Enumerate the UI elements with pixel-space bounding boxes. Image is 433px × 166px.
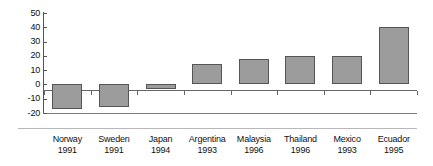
category-year: 1994: [137, 145, 184, 156]
y-tick-mark: [44, 42, 47, 43]
category-year: 1991: [44, 145, 91, 156]
y-tick-label: -20: [2, 109, 40, 118]
x-category-label: Norway1991: [44, 134, 91, 156]
category-label-separator: [18, 128, 417, 129]
bar: [52, 84, 82, 108]
x-category-label: Sweden1991: [91, 134, 138, 156]
x-tick-mark: [231, 91, 232, 95]
bar-chart: 50403020100-10-20 Norway1991Sweden1991Ja…: [0, 0, 433, 166]
bar: [192, 64, 222, 84]
plot-area: [44, 13, 416, 113]
category-name: Thailand: [277, 134, 324, 145]
x-tick-mark: [324, 91, 325, 95]
x-category-label: Argentina1993: [184, 134, 231, 156]
x-category-label: Japan1994: [137, 134, 184, 156]
bar: [239, 59, 269, 85]
y-tick-label: 30: [2, 37, 40, 46]
y-tick-mark: [44, 99, 47, 100]
x-category-label: Mexico1993: [324, 134, 371, 156]
category-name: Malaysia: [231, 134, 278, 145]
y-tick-mark: [44, 13, 47, 14]
y-tick-mark: [44, 84, 47, 85]
y-tick-label: 10: [2, 66, 40, 75]
bar: [99, 84, 129, 107]
category-year: 1993: [184, 145, 231, 156]
y-tick-label: 0: [2, 80, 40, 89]
bar: [379, 27, 409, 84]
category-year: 1996: [277, 145, 324, 156]
x-category-label: Ecuador1995: [370, 134, 417, 156]
category-name: Japan: [137, 134, 184, 145]
bar: [332, 56, 362, 85]
y-tick-mark: [44, 70, 47, 71]
y-tick-label: 50: [2, 9, 40, 18]
category-name: Argentina: [184, 134, 231, 145]
bar: [285, 56, 315, 85]
x-tick-mark: [184, 91, 185, 95]
y-tick-label: 40: [2, 23, 40, 32]
category-year: 1993: [324, 145, 371, 156]
category-name: Norway: [44, 134, 91, 145]
y-axis-labels: 50403020100-10-20: [0, 0, 40, 166]
x-tick-mark: [137, 91, 138, 95]
category-year: 1995: [370, 145, 417, 156]
plot-bottom-border: [43, 113, 417, 114]
y-tick-mark: [44, 113, 47, 114]
category-name: Ecuador: [370, 134, 417, 145]
category-year: 1996: [231, 145, 278, 156]
category-name: Mexico: [324, 134, 371, 145]
y-tick-mark: [44, 27, 47, 28]
y-tick-label: -10: [2, 94, 40, 103]
x-category-label: Malaysia1996: [231, 134, 278, 156]
category-name: Sweden: [91, 134, 138, 145]
category-year: 1991: [91, 145, 138, 156]
x-category-label: Thailand1996: [277, 134, 324, 156]
y-tick-mark: [44, 56, 47, 57]
x-tick-mark: [370, 91, 371, 95]
x-tick-mark: [277, 91, 278, 95]
bar: [146, 84, 176, 88]
x-tick-mark: [417, 91, 418, 95]
x-tick-mark: [91, 91, 92, 95]
y-tick-label: 20: [2, 51, 40, 60]
x-tick-mark: [44, 91, 45, 95]
